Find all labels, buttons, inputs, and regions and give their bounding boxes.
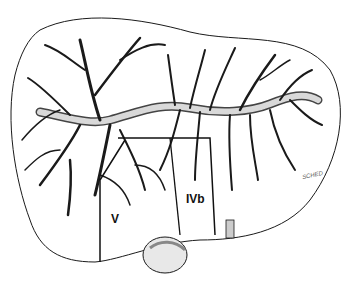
vena-cava [226, 220, 234, 238]
liver-outline [11, 18, 340, 262]
label-segment-ivb: IVb [186, 192, 205, 206]
liver-illustration [0, 0, 348, 285]
label-segment-v: V [111, 212, 119, 226]
vessel-tree [22, 38, 322, 215]
segment-plane-line [170, 138, 180, 235]
segment-plane-line [118, 138, 215, 235]
